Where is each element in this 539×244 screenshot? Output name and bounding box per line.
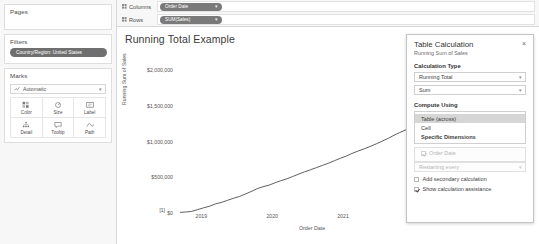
data-label-2: [1] [160, 208, 165, 213]
aggregation-value: Sum [419, 87, 430, 93]
close-icon[interactable]: × [522, 40, 526, 47]
dialog-title: Table Calculation [414, 40, 473, 49]
chevron-down-icon: ▾ [519, 164, 522, 170]
add-secondary-calculation-row[interactable]: Add secondary calculation [414, 176, 526, 182]
compute-option-1[interactable]: Cell [415, 123, 525, 132]
label-icon [85, 101, 94, 109]
calculation-type-heading: Calculation Type [414, 63, 526, 69]
chevron-down-icon: ▾ [519, 87, 522, 93]
dimension-order-date[interactable]: Order Date [415, 150, 525, 156]
filters-title: Filters [5, 35, 111, 48]
show-calculation-assistance-row[interactable]: Show calculation assistance [414, 186, 526, 192]
pill-order-date[interactable]: Order Date ▾ [160, 3, 222, 11]
marks-button-tooltip-label: Tooltip [51, 130, 64, 135]
shelf-area: Columns Order Date ▾ Rows SUM(Sales) ▾ [117, 0, 539, 27]
pill-order-date-label: Order Date [165, 3, 188, 11]
marks-button-tooltip[interactable]: Tooltip [43, 118, 75, 138]
restarting-every-dropdown[interactable]: Restarting every ▾ [414, 162, 526, 172]
show-calculation-assistance-label: Show calculation assistance [423, 186, 492, 192]
mark-type-dropdown[interactable]: Automatic ▾ [10, 84, 106, 94]
restarting-every-value: Restarting every [419, 164, 459, 170]
pages-card[interactable]: Pages [4, 4, 112, 30]
compute-using-list[interactable]: Table (across)CellSpecific Dimensions [414, 111, 526, 144]
marks-button-label[interactable]: Label [74, 98, 106, 118]
marks-title: Marks [5, 69, 111, 82]
dialog-subtitle: Running Sum of Sales [414, 50, 473, 56]
detail-icon [22, 121, 31, 129]
marks-card: Marks Automatic ▾ Color [4, 68, 112, 143]
columns-shelf[interactable]: Columns Order Date ▾ [117, 0, 539, 13]
mark-type-value: Automatic [20, 86, 99, 92]
filter-pill-country-region[interactable]: Country/Region: United States [10, 48, 107, 57]
marks-button-size[interactable]: Size [43, 98, 75, 118]
marks-button-grid: Color Size Label [10, 97, 106, 138]
marks-button-size-label: Size [54, 110, 63, 115]
calculation-type-value: Running Total [419, 74, 453, 80]
color-icon [22, 101, 31, 109]
dimension-checkbox[interactable] [421, 151, 426, 156]
chevron-down-icon: ▾ [519, 74, 522, 80]
show-calculation-assistance-checkbox[interactable] [414, 187, 419, 192]
chevron-down-icon: ▾ [215, 16, 218, 24]
dialog-title-group: Table Calculation Running Sum of Sales [414, 40, 473, 56]
dimension-label: Order Date [429, 150, 456, 156]
rows-shelf-label: Rows [129, 17, 157, 23]
marks-button-detail-label: Detail [20, 130, 32, 135]
pill-sum-sales-label: SUM(Sales) [165, 16, 190, 24]
chevron-down-icon: ▾ [99, 86, 102, 92]
compute-option-2[interactable]: Specific Dimensions [415, 132, 525, 141]
pages-title: Pages [5, 5, 111, 18]
size-icon [53, 101, 62, 109]
marks-button-path[interactable]: Path [74, 118, 106, 138]
aggregation-dropdown[interactable]: Sum ▾ [414, 85, 526, 95]
add-secondary-calculation-label: Add secondary calculation [423, 176, 487, 182]
rows-grip-icon [121, 17, 127, 23]
specific-dimensions-box: Order Date [414, 147, 526, 162]
marks-button-color[interactable]: Color [11, 98, 43, 118]
columns-grip-icon [121, 4, 127, 10]
path-icon [85, 121, 94, 129]
columns-shelf-label: Columns [129, 4, 157, 10]
calculation-type-dropdown[interactable]: Running Total ▾ [414, 72, 526, 82]
left-panel: Pages Filters Country/Region: United Sta… [0, 0, 117, 244]
table-calculation-dialog[interactable]: Table Calculation Running Sum of Sales ×… [406, 34, 534, 223]
compute-using-heading: Compute Using [414, 102, 526, 108]
filters-card[interactable]: Filters Country/Region: United States [4, 34, 112, 64]
rows-drop-zone[interactable]: SUM(Sales) ▾ [157, 14, 535, 25]
add-secondary-calculation-checkbox[interactable] [414, 177, 419, 182]
marks-button-label-label: Label [84, 110, 95, 115]
chevron-down-icon: ▾ [215, 3, 218, 11]
compute-option-0[interactable]: Table (across) [415, 114, 525, 123]
pill-sum-sales[interactable]: SUM(Sales) ▾ [160, 16, 222, 24]
rows-shelf[interactable]: Rows SUM(Sales) ▾ [117, 13, 539, 26]
columns-drop-zone[interactable]: Order Date ▾ [157, 1, 535, 12]
marks-button-path-label: Path [85, 130, 94, 135]
marks-button-color-label: Color [21, 110, 32, 115]
dialog-header: Table Calculation Running Sum of Sales × [414, 40, 526, 56]
marks-button-detail[interactable]: Detail [11, 118, 43, 138]
tooltip-icon [53, 121, 62, 129]
